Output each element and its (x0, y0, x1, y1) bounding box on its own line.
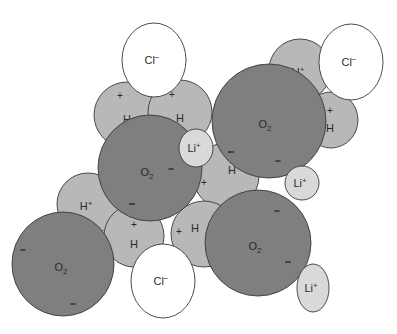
oxygen-particle: O2 (205, 190, 311, 296)
chloride-particle: Cl− (319, 24, 383, 100)
chloride-particle: Cl− (122, 23, 186, 97)
charge-plus-mark: + (327, 105, 333, 116)
hydrogen-label: H (326, 122, 334, 134)
oxygen-circle (205, 190, 311, 296)
oxygen-particle: O2 (12, 212, 114, 316)
lithium-particle: Li+ (179, 129, 213, 167)
charge-plus-mark: + (176, 226, 182, 237)
hydrogen-label: H (191, 222, 199, 234)
charge-plus-mark: + (117, 90, 123, 101)
charge-plus-mark: + (201, 177, 207, 188)
hydrogen-label: H (130, 238, 138, 250)
charge-plus-mark: + (131, 219, 137, 230)
oxygen-particle: O2 (98, 115, 202, 221)
oxygen-particle: O2 (212, 64, 326, 178)
ion-packing-diagram: H+H+Cl−H+H+Cl−H+H+H+H+O2O2O2O2Li+Li+Cl−L… (0, 0, 397, 334)
oxygen-circle (98, 115, 202, 221)
oxygen-circle (212, 64, 326, 178)
lithium-particle: Li+ (297, 264, 329, 312)
chloride-particle: Cl− (131, 244, 195, 318)
particles-layer: H+H+Cl−H+H+Cl−H+H+H+H+O2O2O2O2Li+Li+Cl−L… (12, 23, 383, 318)
lithium-particle: Li+ (285, 166, 319, 200)
